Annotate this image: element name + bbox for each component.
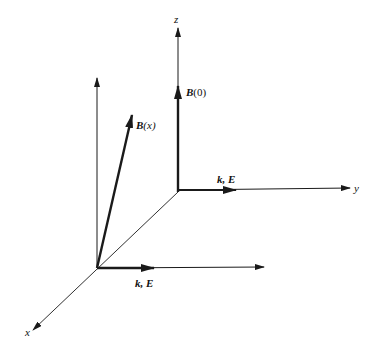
b0-arg: (0) bbox=[193, 86, 206, 98]
bx-label: B(x) bbox=[136, 120, 156, 131]
ke-label-top: k, E bbox=[217, 174, 235, 185]
bx-vector bbox=[97, 115, 132, 268]
diagram-svg bbox=[0, 0, 367, 353]
z-axis-label: z bbox=[174, 14, 178, 25]
x-axis-label: x bbox=[25, 327, 30, 338]
y-axis-label: y bbox=[354, 183, 359, 194]
ke-label-bottom: k, E bbox=[135, 278, 153, 289]
x-axis bbox=[33, 192, 178, 330]
bx-arg: (x) bbox=[143, 119, 155, 131]
diagram-canvas: z y x B(0) B(x) k, E k, E bbox=[0, 0, 367, 353]
b0-label: B(0) bbox=[186, 87, 206, 98]
